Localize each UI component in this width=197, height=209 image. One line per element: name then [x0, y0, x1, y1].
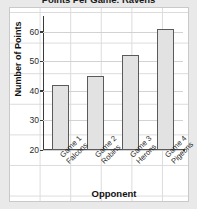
y-tick-mark	[40, 90, 43, 91]
chart-title: Points Per Game: Ravens	[0, 0, 197, 5]
x-axis-label: Opponent	[43, 188, 185, 199]
y-axis-label: Number of Points	[13, 21, 23, 96]
bar	[122, 55, 139, 150]
y-tick-mark	[40, 150, 43, 151]
bar	[157, 29, 174, 150]
bar	[52, 85, 69, 150]
y-tick-mark	[40, 120, 43, 121]
y-tick-label: 50	[30, 56, 39, 66]
bar	[87, 76, 104, 150]
y-tick-label: 30	[30, 115, 39, 125]
y-tick-mark	[40, 61, 43, 62]
plot-area: 2030405060	[43, 20, 183, 150]
chart-screenshot: Points Per Game: Ravens 2030405060 Numbe…	[0, 0, 197, 209]
y-tick-label: 20	[30, 145, 39, 155]
y-tick-label: 40	[30, 86, 39, 96]
y-tick-mark	[40, 31, 43, 32]
y-tick-label: 60	[30, 27, 39, 37]
